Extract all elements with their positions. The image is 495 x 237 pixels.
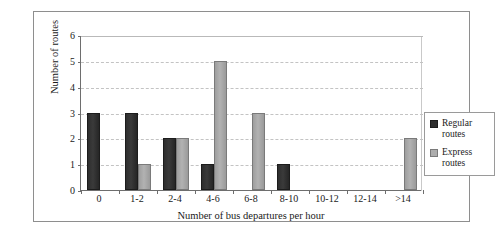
legend-item-express-routes: Expressroutes [430, 147, 490, 169]
x-axis-tick-labels: 01-22-44-66-88-1010-1212-14>14 [80, 194, 422, 204]
bar-regular-routes [277, 164, 290, 190]
y-axis-tick-label: 6 [70, 31, 75, 41]
chart-legend: Regularroutes Expressroutes [424, 112, 495, 176]
x-axis-tick-label: 1-2 [118, 194, 156, 204]
bar-express-routes [404, 138, 417, 190]
y-axis-tick-label: 3 [70, 109, 75, 119]
bar-express-routes [252, 113, 265, 191]
bar-groups [81, 35, 423, 190]
x-axis-tick-label: 6-8 [232, 194, 270, 204]
x-axis-tick-label: 0 [80, 194, 118, 204]
x-axis-tick-mark [423, 190, 424, 194]
x-axis-tick-label: 12-14 [346, 194, 384, 204]
y-axis-tick-label: 0 [70, 186, 75, 196]
y-axis-tick-label: 5 [70, 57, 75, 67]
bar-group [233, 35, 271, 190]
x-axis-tick-label: 4-6 [194, 194, 232, 204]
bar-group [271, 35, 309, 190]
bar-regular-routes [163, 138, 176, 190]
bar-group [195, 35, 233, 190]
y-axis-tick-label: 1 [70, 160, 75, 170]
bar-express-routes [138, 164, 151, 190]
legend-label-regular-routes: Regularroutes [442, 118, 472, 140]
x-axis-tick-label: 2-4 [156, 194, 194, 204]
legend-swatch-express-routes [430, 149, 438, 157]
chart-frame: Number of routes 0123456 01-22-44-66-88-… [33, 11, 470, 222]
bar-regular-routes [87, 113, 100, 191]
bar-group [81, 35, 119, 190]
x-axis-tick-label: 8-10 [270, 194, 308, 204]
legend-swatch-regular-routes [430, 120, 438, 128]
bar-group [385, 35, 423, 190]
y-axis-tick-label: 2 [70, 134, 75, 144]
y-axis-tick-label: 4 [70, 83, 75, 93]
bar-group [347, 35, 385, 190]
y-axis-title: Number of routes [49, 20, 60, 94]
legend-label-express-routes: Expressroutes [442, 147, 472, 169]
bar-express-routes [176, 138, 189, 190]
x-axis-tick-label: >14 [384, 194, 422, 204]
bar-group [309, 35, 347, 190]
y-axis-title-container: Number of routes [52, 36, 66, 191]
legend-item-regular-routes: Regularroutes [430, 118, 490, 140]
x-axis-title: Number of bus departures per hour [80, 210, 422, 221]
bar-regular-routes [125, 113, 138, 191]
bar-regular-routes [201, 164, 214, 190]
bar-group [157, 35, 195, 190]
x-axis-tick-label: 10-12 [308, 194, 346, 204]
plot-area: 0123456 [80, 36, 422, 191]
bar-group [119, 35, 157, 190]
bar-express-routes [214, 61, 227, 190]
